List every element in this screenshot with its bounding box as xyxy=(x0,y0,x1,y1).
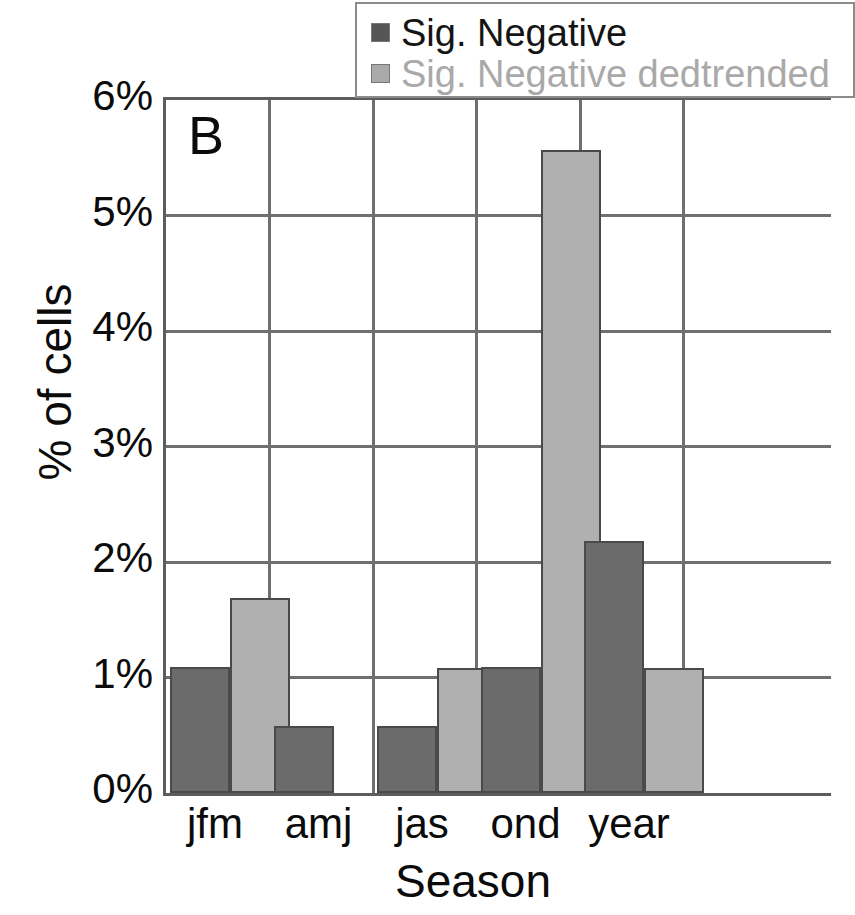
panel-label: B xyxy=(188,108,224,162)
legend-entry-1: Sig. Negative dedtrended xyxy=(371,53,853,94)
legend-swatch-icon xyxy=(371,64,390,83)
gridline-category-divider xyxy=(372,100,375,793)
x-axis-tick-label-jfm: jfm xyxy=(163,800,267,848)
y-axis-tick-label: 4% xyxy=(3,306,153,348)
bar-year-series-1 xyxy=(644,668,704,793)
x-axis-tick-label-jas: jas xyxy=(370,800,474,848)
y-axis-tick-label: 3% xyxy=(3,422,153,464)
chart-legend: Sig. NegativeSig. Negative dedtrended xyxy=(355,2,855,98)
x-axis-tick-label-amj: amj xyxy=(267,800,371,848)
y-axis-tick-label: 2% xyxy=(3,537,153,579)
y-axis-tick-label: 1% xyxy=(3,653,153,695)
bar-year-series-0 xyxy=(584,541,644,793)
gridline-horizontal xyxy=(166,561,831,564)
x-axis-tick-label-year: year xyxy=(577,800,681,848)
x-axis-title: Season xyxy=(163,856,783,906)
legend-label: Sig. Negative xyxy=(401,13,627,53)
plot-area xyxy=(163,97,831,796)
y-axis-tick-label: 0% xyxy=(3,768,153,810)
y-axis-tick-label: 6% xyxy=(3,75,153,117)
gridline-horizontal xyxy=(166,445,831,448)
legend-label: Sig. Negative dedtrended xyxy=(401,54,830,94)
x-axis-tick-label-ond: ond xyxy=(474,800,578,848)
legend-swatch-icon xyxy=(371,23,390,42)
gridline-horizontal xyxy=(166,330,831,333)
bar-jas-series-0 xyxy=(377,726,437,793)
y-axis-tick-label: 5% xyxy=(3,191,153,233)
bar-jfm-series-0 xyxy=(170,667,230,793)
bar-ond-series-0 xyxy=(481,667,541,793)
legend-entry-0: Sig. Negative xyxy=(371,12,853,53)
y-axis-tick-labels: 6%5%4%3%2%1%0% xyxy=(0,0,153,915)
bar-amj-series-0 xyxy=(274,726,334,793)
gridline-horizontal xyxy=(166,214,831,217)
x-axis-tick-labels: jfmamjjasondyear xyxy=(163,800,828,860)
